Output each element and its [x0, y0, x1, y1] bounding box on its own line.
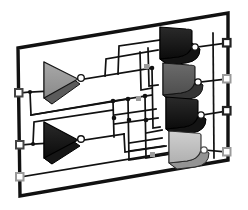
terminal-pad-out-4[interactable] [223, 148, 231, 156]
junction-dot [31, 142, 35, 146]
terminal-pad-in-3[interactable] [16, 173, 24, 181]
junction-dot [126, 97, 131, 102]
via-marker [136, 96, 141, 101]
and-4-body [169, 131, 201, 163]
and-2-body [163, 63, 195, 95]
inverter-1-bubble [78, 75, 85, 82]
junction-dot [28, 90, 32, 94]
junction-dot [127, 118, 132, 123]
terminal-pad-in-2[interactable] [16, 141, 24, 149]
junction-dot [143, 94, 148, 99]
junction-dot [144, 118, 149, 123]
terminal-pad-out-3[interactable] [223, 107, 231, 115]
circuit-diagram-canvas [0, 0, 248, 210]
terminal-pad-out-2[interactable] [223, 75, 231, 83]
junction-dot [150, 66, 155, 71]
junction-dot [111, 99, 116, 104]
terminal-pad-in-1[interactable] [15, 89, 23, 97]
inverter-2-bubble [78, 136, 85, 143]
and-3-body [166, 97, 198, 129]
and-1-body [160, 27, 192, 59]
and-1-bubble [192, 44, 198, 50]
junction-dot [112, 116, 117, 121]
and-2-bubble [195, 79, 201, 85]
and-3-bubble [198, 112, 204, 118]
via-marker [144, 64, 149, 69]
wire-right-bus [213, 33, 214, 158]
terminal-pad-out-1[interactable] [223, 39, 231, 47]
via-marker [150, 152, 155, 157]
and-4-bubble [201, 147, 207, 153]
